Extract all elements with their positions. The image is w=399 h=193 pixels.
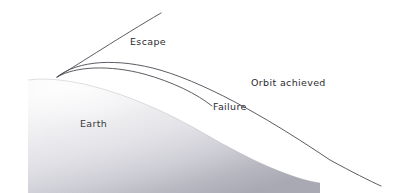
earth-highlight-shape	[28, 79, 320, 193]
earth-body	[28, 79, 320, 193]
diagram-canvas: Escape Orbit achieved Failure Earth	[0, 0, 399, 193]
orbital-trajectory-diagram: Escape Orbit achieved Failure Earth	[0, 0, 399, 193]
label-earth: Earth	[80, 118, 107, 129]
label-orbit-achieved: Orbit achieved	[251, 77, 326, 88]
label-failure: Failure	[213, 101, 247, 112]
label-escape: Escape	[130, 36, 166, 47]
